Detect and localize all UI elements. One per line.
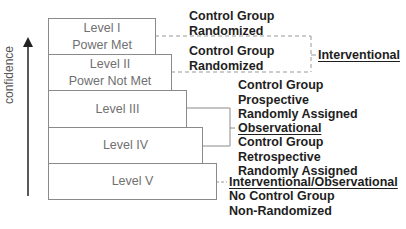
category-interventional: Interventional [318,48,400,63]
level-4-box: Level IV [48,127,203,164]
level-1-name: Level I [84,20,121,37]
level-3-description: Control Group Prospective Randomly Assig… [238,78,358,122]
level-4-name: Level IV [103,137,148,154]
level-2-description: Control Group Randomized [189,44,274,73]
level-5-name: Level V [112,173,154,190]
confidence-arrow-head-icon [23,37,33,47]
level-3-name: Level III [96,101,140,118]
level-1-description: Control Group Randomized [189,9,274,38]
level-4-description: Control Group Retrospective Randomly Ass… [238,135,358,179]
axis-label-confidence: confidence [2,46,16,104]
level-2-sub: Power Not Met [69,73,152,90]
level-1-box: Level I Power Met [48,18,156,55]
category-interventional-observational: Interventional/Observational [229,175,398,190]
level-2-name: Level II [90,56,130,73]
level-2-box: Level II Power Not Met [48,54,172,91]
category-observational: Observational [238,121,321,136]
level-5-box: Level V [48,163,217,200]
level-5-description: No Control Group Non-Randomized [229,189,335,218]
level-1-sub: Power Met [72,37,132,54]
level-3-box: Level III [48,90,187,128]
